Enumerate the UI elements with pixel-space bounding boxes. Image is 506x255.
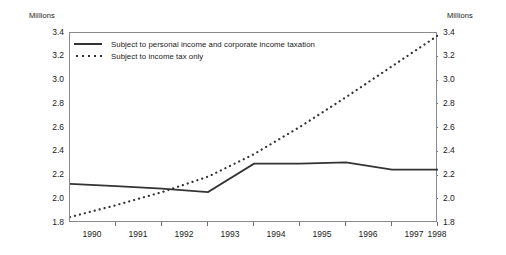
y-tick-label-right: 3.4 <box>443 27 469 37</box>
dotted-line-icon <box>73 55 103 57</box>
x-tick-label: 1998 <box>415 229 459 239</box>
y-tick-label-right: 2.6 <box>443 122 469 132</box>
x-tick-label: 1994 <box>254 229 298 239</box>
y-tick-label-right: 1.8 <box>443 217 469 227</box>
y-axis-title-left: Millions <box>29 11 55 20</box>
y-axis-title-right: Millions <box>447 11 473 20</box>
y-tick-label-right: 2.2 <box>443 169 469 179</box>
chart-figure: Millions Millions 3.43.23.02.82.62.42.22… <box>0 0 506 255</box>
y-tick-label-right: 3.2 <box>443 50 469 60</box>
x-tick-label: 1993 <box>208 229 252 239</box>
x-tick-label: 1995 <box>300 229 344 239</box>
legend-item: Subject to personal income and corporate… <box>73 38 373 50</box>
legend-item: Subject to income tax only <box>73 50 373 62</box>
y-tick-label-right: 2.4 <box>443 145 469 155</box>
y-tick-label-left: 3.2 <box>38 50 64 60</box>
x-tick-label: 1990 <box>70 229 114 239</box>
x-tick-label: 1996 <box>346 229 390 239</box>
legend-label: Subject to personal income and corporate… <box>111 40 315 49</box>
y-tick-label-left: 3.4 <box>38 27 64 37</box>
y-tick-label-right: 2.8 <box>443 98 469 108</box>
y-tick-label-left: 2.0 <box>38 193 64 203</box>
x-tick-label: 1992 <box>162 229 206 239</box>
y-tick-label-right: 3.0 <box>443 74 469 84</box>
series-line-2 <box>70 35 438 217</box>
series-line-1 <box>70 162 438 192</box>
legend-label: Subject to income tax only <box>111 52 203 61</box>
y-tick-label-left: 1.8 <box>38 217 64 227</box>
chart-legend: Subject to personal income and corporate… <box>73 38 373 62</box>
solid-line-icon <box>73 43 103 45</box>
x-tick-label: 1991 <box>116 229 160 239</box>
y-tick-label-left: 3.0 <box>38 74 64 84</box>
y-tick-label-left: 2.2 <box>38 169 64 179</box>
y-tick-label-right: 2.0 <box>443 193 469 203</box>
y-tick-label-left: 2.8 <box>38 98 64 108</box>
y-tick-label-left: 2.6 <box>38 122 64 132</box>
y-tick-label-left: 2.4 <box>38 145 64 155</box>
